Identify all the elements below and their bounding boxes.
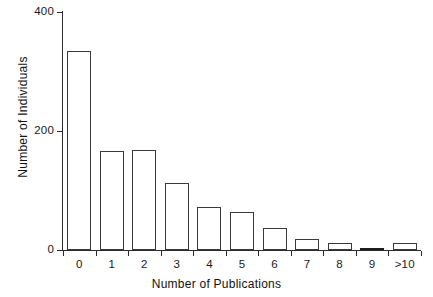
x-axis-tick-label: 4: [193, 258, 226, 271]
bar: [230, 212, 254, 250]
x-axis-tick: [356, 251, 357, 256]
y-axis-tick-label-wrap: 400: [0, 6, 54, 17]
y-axis-tick: [57, 12, 62, 13]
y-axis-tick-label: 0: [0, 244, 54, 255]
x-axis-tick-label: 0: [63, 258, 96, 271]
bar: [263, 228, 287, 250]
y-axis-tick: [57, 250, 62, 251]
y-axis-tick: [57, 131, 62, 132]
bar: [197, 207, 221, 250]
bar: [360, 248, 384, 250]
x-axis-tick-label: 2: [128, 258, 161, 271]
x-axis-tick: [291, 251, 292, 256]
bar: [328, 243, 352, 250]
bar: [67, 51, 91, 250]
x-axis-tick: [388, 251, 389, 256]
x-axis-tick: [258, 251, 259, 256]
plot-area: [63, 12, 421, 250]
x-axis-tick: [63, 251, 64, 256]
x-axis-tick-label: 7: [291, 258, 324, 271]
bar: [100, 151, 124, 250]
bar: [132, 150, 156, 250]
y-axis-tick-label-wrap: 200: [0, 125, 54, 136]
x-axis-tick-label: 9: [356, 258, 389, 271]
y-axis-tick-label: 400: [0, 6, 54, 17]
x-axis-tick-label: 1: [96, 258, 129, 271]
bar: [393, 243, 417, 250]
x-axis-line: [62, 250, 421, 251]
x-axis-tick: [193, 251, 194, 256]
y-axis-title: Number of Individuals: [16, 42, 30, 192]
x-axis-tick: [128, 251, 129, 256]
x-axis-tick: [421, 251, 422, 256]
x-axis-tick: [226, 251, 227, 256]
x-axis-tick-label: 5: [226, 258, 259, 271]
bar: [165, 183, 189, 250]
x-axis-tick-label: 6: [258, 258, 291, 271]
x-axis-tick-label: >10: [388, 258, 421, 271]
y-axis-tick-label: 200: [0, 125, 54, 136]
chart-figure: Number of Individuals 0200400 0123456789…: [0, 0, 433, 297]
x-axis-tick: [96, 251, 97, 256]
y-axis-tick-label-wrap: 0: [0, 244, 54, 255]
x-axis-tick: [161, 251, 162, 256]
x-axis-title: Number of Publications: [0, 277, 433, 291]
x-axis-tick-label: 8: [323, 258, 356, 271]
x-axis-tick-label: 3: [161, 258, 194, 271]
x-axis-tick: [323, 251, 324, 256]
bar: [295, 239, 319, 250]
